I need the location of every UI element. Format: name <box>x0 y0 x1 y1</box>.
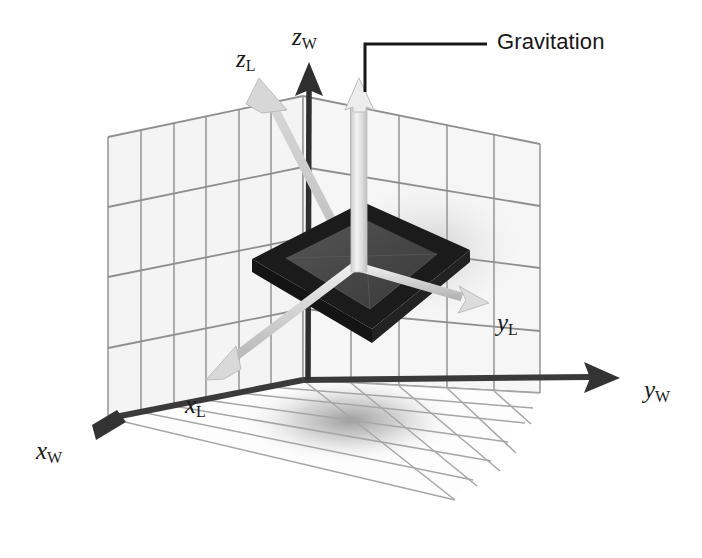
axis-label-z-local: zL <box>236 46 256 74</box>
axis-label-y-local-base: y <box>497 309 508 336</box>
gravitation-arrow-shaft <box>351 100 367 272</box>
axis-label-y-local-sub: L <box>508 321 518 338</box>
axis-label-x-world-sub: W <box>47 449 62 466</box>
gravitation-leader <box>365 44 487 92</box>
axis-label-z-world: zW <box>292 24 317 52</box>
three-d-scene <box>0 0 702 558</box>
axis-label-x-local-sub: L <box>196 403 206 420</box>
axis-label-x-world: xW <box>36 438 62 466</box>
gravitation-arrow-head <box>345 78 374 112</box>
gravitation-label: Gravitation <box>497 29 604 55</box>
axis-label-y-world-sub: W <box>655 388 670 405</box>
axis-label-z-local-base: z <box>236 45 246 72</box>
gravitation-leader-line <box>365 44 487 92</box>
axis-label-z-world-sub: W <box>302 35 317 52</box>
axis-label-x-local-base: x <box>185 391 196 418</box>
z-local-axis-arrowhead <box>246 78 287 113</box>
y-world-axis-shaft <box>303 377 590 380</box>
axis-label-y-world: yW <box>644 377 670 405</box>
gravitation-label-text: Gravitation <box>497 29 604 54</box>
figure-canvas: Gravitation zW zL yL yW xL xW <box>0 0 702 558</box>
axis-label-x-world-base: x <box>36 437 47 464</box>
axis-label-x-local: xL <box>185 392 206 420</box>
axis-label-y-local: yL <box>497 310 518 338</box>
axis-label-z-local-sub: L <box>246 57 256 74</box>
axis-label-y-world-base: y <box>644 376 655 403</box>
axis-label-z-world-base: z <box>292 23 302 50</box>
